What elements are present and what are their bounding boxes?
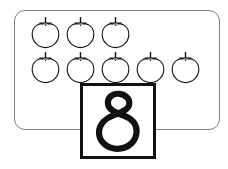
apple-icon (29, 15, 62, 49)
number-eight-glyph: 8 (92, 90, 144, 152)
apple-row-bottom: 5 (29, 50, 202, 84)
apple-total-count: 8 (0, 0, 1, 1)
worksheet-title: Counting worksheet: eight apples (0, 0, 1, 1)
apple-row-top: 3 (29, 15, 132, 49)
apple-icon (99, 50, 132, 84)
apple-icon (134, 50, 167, 84)
apple-icon (99, 15, 132, 49)
apple-icon (29, 50, 62, 84)
number-card: 8 (80, 83, 156, 159)
apple-icon (169, 50, 202, 84)
apple-icon (64, 15, 97, 49)
apple-icon (64, 50, 97, 84)
counting-worksheet: 3 (0, 0, 228, 169)
number-card-value: 8 (92, 90, 101, 93)
